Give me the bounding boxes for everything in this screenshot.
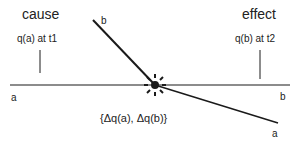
cause-label: cause	[22, 6, 59, 22]
exchange-label: {Δq(a), Δq(b)}	[100, 112, 167, 124]
line-b-end-label: b	[280, 91, 286, 102]
collision-burst-icon	[144, 74, 166, 96]
cause-quantity: q(a) at t1	[17, 33, 57, 44]
incoming-worldline-b	[93, 20, 155, 85]
line-a-start-label: a	[11, 92, 17, 103]
line-a-end-label: a	[272, 128, 278, 139]
effect-quantity: q(b) at t2	[235, 33, 275, 44]
effect-label: effect	[242, 6, 276, 22]
outgoing-worldline-a	[155, 85, 278, 123]
line-b-start-label: b	[101, 15, 107, 26]
